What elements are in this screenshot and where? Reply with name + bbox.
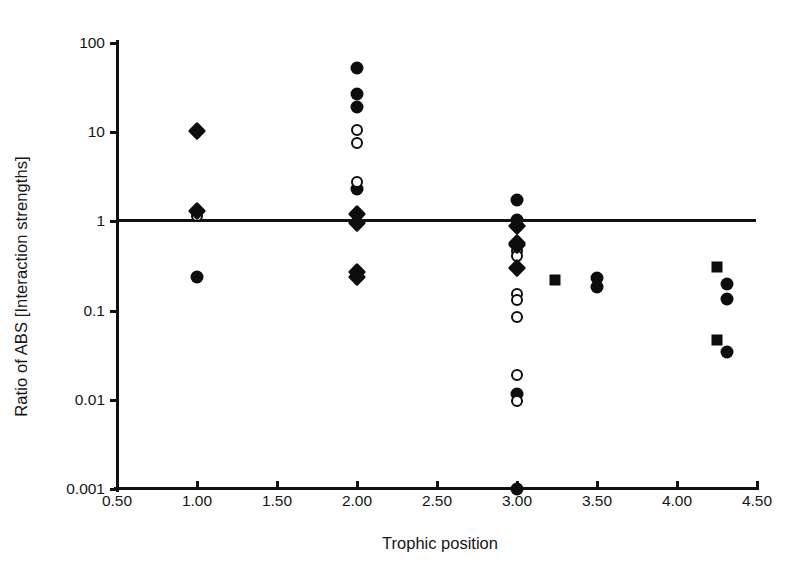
y-axis-tick-label: 10 xyxy=(40,123,105,141)
data-point-filled-circle xyxy=(720,292,733,305)
data-point-filled-circle xyxy=(591,280,604,293)
data-point-filled-square xyxy=(712,261,723,272)
x-axis-tick xyxy=(676,481,679,488)
data-point-filled-circle xyxy=(351,87,364,100)
x-axis-tick xyxy=(196,481,199,488)
y-axis-tick-label: 100 xyxy=(40,34,105,52)
y-axis-tick xyxy=(110,42,117,45)
data-point-open-circle xyxy=(511,369,523,381)
x-axis-tick-label: 2.50 xyxy=(402,492,472,510)
data-point-filled-square xyxy=(712,334,723,345)
data-point-filled-circle xyxy=(351,101,364,114)
x-axis-tick-label: 0.50 xyxy=(82,492,152,510)
y-axis-tick xyxy=(110,131,117,134)
x-axis-tick xyxy=(756,481,759,488)
data-point-filled-circle xyxy=(511,483,524,496)
x-axis-tick-label: 1.50 xyxy=(242,492,312,510)
y-axis-tick-label: 0.1 xyxy=(40,302,105,320)
data-point-filled-diamond xyxy=(188,122,206,140)
data-point-open-circle xyxy=(351,137,363,149)
data-point-filled-square xyxy=(550,275,561,286)
data-point-filled-circle xyxy=(720,346,733,359)
x-axis-tick-label: 2.00 xyxy=(322,492,392,510)
y-axis-tick-label: 0.01 xyxy=(40,391,105,409)
x-axis-label: Trophic position xyxy=(110,534,770,553)
data-point-filled-circle xyxy=(191,270,204,283)
y-axis-tick xyxy=(110,488,117,491)
data-point-open-circle xyxy=(511,311,523,323)
x-axis-tick xyxy=(436,481,439,488)
x-axis-tick xyxy=(596,481,599,488)
data-point-filled-circle xyxy=(720,277,733,290)
x-axis-tick-label: 3.50 xyxy=(562,492,632,510)
y-axis-line xyxy=(116,40,119,492)
reference-line-at-one xyxy=(117,219,756,222)
y-axis-label: Ratio of ABS [Interaction strengths] xyxy=(0,0,42,573)
data-point-filled-circle xyxy=(351,62,364,75)
data-point-filled-diamond xyxy=(508,259,526,277)
y-axis-tick xyxy=(110,310,117,313)
scatter-plot-figure: Ratio of ABS [Interaction strengths] Tro… xyxy=(0,0,795,573)
data-point-open-circle xyxy=(351,124,363,136)
y-axis-tick xyxy=(110,399,117,402)
data-point-open-circle xyxy=(511,294,523,306)
data-point-filled-circle xyxy=(511,193,524,206)
x-axis-tick xyxy=(276,481,279,488)
x-axis-tick xyxy=(356,481,359,488)
x-axis-tick xyxy=(116,481,119,488)
y-axis-tick-label: 1 xyxy=(40,212,105,230)
data-point-open-circle xyxy=(351,176,363,188)
data-point-open-circle xyxy=(511,395,523,407)
y-axis-tick xyxy=(110,220,117,223)
x-axis-tick-label: 4.00 xyxy=(642,492,712,510)
x-axis-tick-label: 1.00 xyxy=(162,492,232,510)
x-axis-tick-label: 4.50 xyxy=(722,492,792,510)
